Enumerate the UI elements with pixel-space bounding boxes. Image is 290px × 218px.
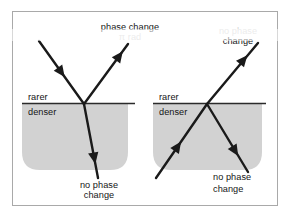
right-reflected-label-line2: change [208,36,268,47]
phase-change-diagram: phase change π rad rarer denser no phase… [0,0,290,218]
left-transmitted-label-line2: change [67,190,131,201]
left-rarer-label: rarer [28,92,48,103]
right-denser-label: denser [159,107,187,118]
right-transmitted-label-line2: change [213,184,243,195]
left-reflected-label-line2: π rad [92,32,168,43]
right-rarer-label: rarer [159,92,179,103]
right-reflected-label-line1: no phase [208,26,268,37]
left-denser-label: denser [28,107,56,118]
right-transmitted-label-line1: no phase [213,172,251,183]
left-transmitted-label-line1: no phase [67,180,131,191]
left-reflected-label-line1: phase change [92,22,168,33]
